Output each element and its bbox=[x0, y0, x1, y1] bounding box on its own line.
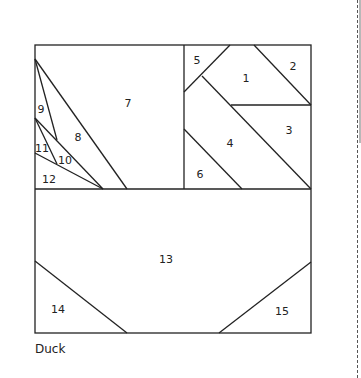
piece-label-7: 7 bbox=[125, 97, 132, 110]
piece-label-3: 3 bbox=[286, 124, 293, 137]
cut-line-dashed bbox=[357, 0, 358, 378]
piece-label-9: 9 bbox=[38, 103, 45, 116]
piece-label-8: 8 bbox=[75, 131, 82, 144]
piece-label-5: 5 bbox=[194, 54, 201, 67]
piece-label-12: 12 bbox=[42, 173, 56, 186]
piece-labels: 123456789101112131415 bbox=[35, 54, 297, 318]
caption: Duck bbox=[35, 342, 65, 356]
piece-label-10: 10 bbox=[58, 154, 72, 167]
piece-label-15: 15 bbox=[275, 305, 289, 318]
piece-label-11: 11 bbox=[35, 142, 49, 155]
duck-quilt-block-diagram: 123456789101112131415 bbox=[0, 0, 361, 378]
piece-label-13: 13 bbox=[159, 253, 173, 266]
block-lines bbox=[35, 45, 311, 333]
piece-label-14: 14 bbox=[51, 303, 65, 316]
piece-label-2: 2 bbox=[290, 60, 297, 73]
piece-label-4: 4 bbox=[227, 137, 234, 150]
piece-label-6: 6 bbox=[197, 168, 204, 181]
piece-label-1: 1 bbox=[243, 72, 250, 85]
